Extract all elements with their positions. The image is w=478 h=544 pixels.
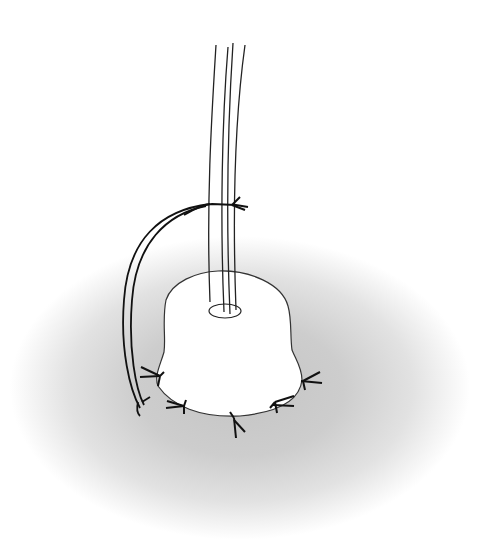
drain-illustration — [0, 0, 478, 544]
figure-canvas — [0, 0, 478, 544]
tube-anchor-suture — [184, 197, 248, 215]
